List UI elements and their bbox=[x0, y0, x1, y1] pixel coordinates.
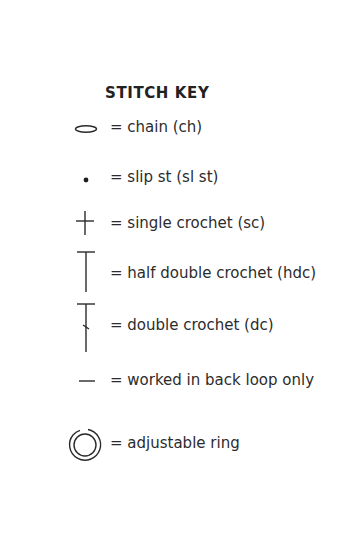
single-crochet-cross-icon bbox=[75, 210, 95, 236]
stitch-key-item-back-loop: = worked in back loop only bbox=[0, 370, 351, 392]
stitch-key-item-chain: = chain (ch) bbox=[0, 118, 351, 140]
stitch-key-item-slip-stitch: = slip st (sl st) bbox=[0, 168, 351, 190]
stitch-key-title: STITCH KEY bbox=[105, 84, 209, 102]
stitch-key-label: = half double crochet (hdc) bbox=[110, 264, 316, 282]
stitch-key-item-half-double-crochet: = half double crochet (hdc) bbox=[0, 250, 351, 294]
slip-stitch-dot-icon bbox=[82, 176, 90, 184]
stitch-key-label: = worked in back loop only bbox=[110, 371, 314, 389]
back-loop-dash-icon bbox=[78, 379, 96, 383]
half-double-crochet-t-icon bbox=[75, 250, 97, 294]
stitch-key-label: = slip st (sl st) bbox=[110, 168, 218, 186]
stitch-key-label: = single crochet (sc) bbox=[110, 214, 265, 232]
double-crochet-t-slash-icon bbox=[75, 302, 97, 354]
stitch-key-item-adjustable-ring: = adjustable ring bbox=[0, 424, 351, 464]
stitch-key-label: = chain (ch) bbox=[110, 118, 202, 136]
chain-oval-icon bbox=[74, 124, 98, 134]
stitch-key-label: = adjustable ring bbox=[110, 434, 240, 452]
stitch-key-item-single-crochet: = single crochet (sc) bbox=[0, 210, 351, 238]
adjustable-ring-icon bbox=[66, 424, 106, 464]
stitch-key-label: = double crochet (dc) bbox=[110, 316, 274, 334]
stitch-key-item-double-crochet: = double crochet (dc) bbox=[0, 302, 351, 354]
